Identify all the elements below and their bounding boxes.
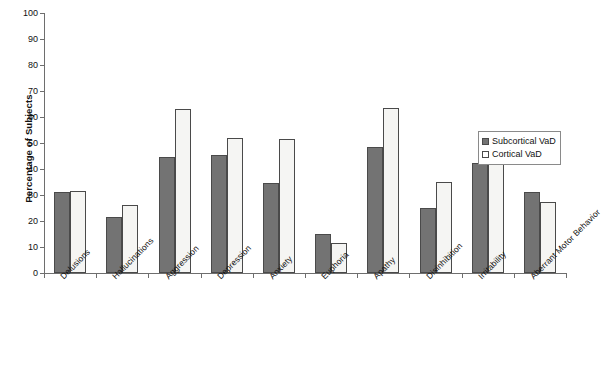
x-axis-labels: DelusionsHallucinationsAggressionDepress…: [44, 274, 566, 373]
y-tick-label: 20: [28, 216, 38, 226]
y-tick-label: 0: [33, 268, 38, 278]
y-tick-label: 90: [28, 34, 38, 44]
legend-label-subcortical: Subcortical VaD: [492, 136, 556, 147]
bar-0-2: [159, 157, 175, 273]
y-tick-label: 60: [28, 112, 38, 122]
y-tick-label: 80: [28, 60, 38, 70]
legend-item-subcortical: Subcortical VaD: [482, 135, 556, 148]
chart-legend: Subcortical VaD Cortical VaD: [478, 131, 561, 165]
y-tick-mark: [40, 39, 44, 40]
y-tick-mark: [40, 247, 44, 248]
legend-swatch-cortical: [482, 151, 489, 158]
y-tick-mark: [40, 91, 44, 92]
legend-item-cortical: Cortical VaD: [482, 148, 556, 161]
y-tick-label: 30: [28, 190, 38, 200]
y-tick-mark: [40, 143, 44, 144]
bar-0-0: [54, 192, 70, 273]
bar-0-3: [211, 155, 227, 273]
y-tick-label: 70: [28, 86, 38, 96]
legend-label-cortical: Cortical VaD: [492, 149, 542, 160]
x-tick-mark: [566, 273, 567, 278]
y-tick-mark: [40, 195, 44, 196]
bar-0-8: [472, 163, 488, 274]
bar-1-6: [383, 108, 399, 273]
legend-swatch-subcortical: [482, 138, 489, 145]
y-tick-mark: [40, 117, 44, 118]
bar-0-6: [367, 147, 383, 273]
y-tick-label: 100: [23, 8, 38, 18]
bar-0-9: [524, 192, 540, 273]
y-axis-line: [44, 13, 45, 274]
y-tick-mark: [40, 169, 44, 170]
y-tick-label: 10: [28, 242, 38, 252]
y-tick-label: 50: [28, 138, 38, 148]
y-tick-mark: [40, 65, 44, 66]
y-tick-mark: [40, 13, 44, 14]
y-tick-mark: [40, 221, 44, 222]
bar-0-4: [263, 183, 279, 273]
y-tick-label: 40: [28, 164, 38, 174]
